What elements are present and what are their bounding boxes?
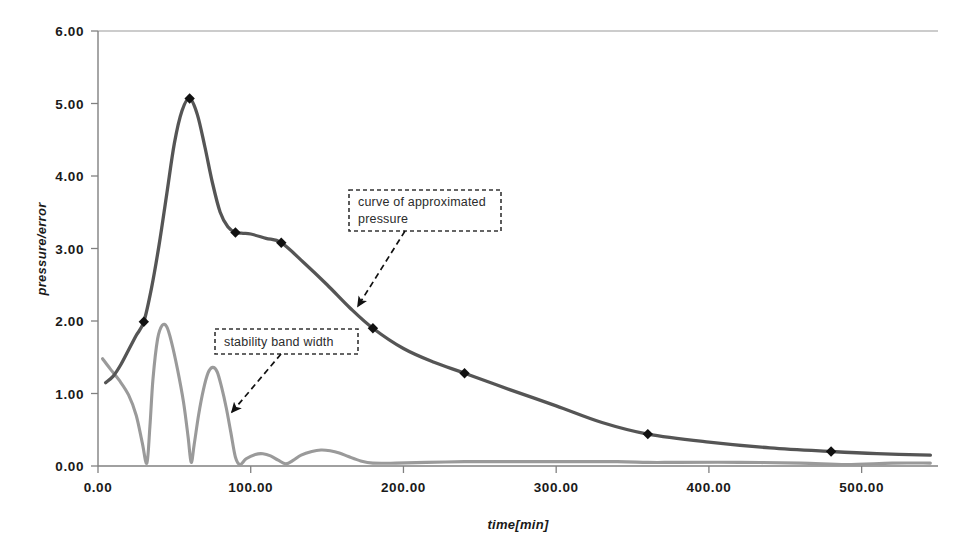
y-axis-title: pressure/error xyxy=(34,202,49,297)
annotation-text: curve of approximated xyxy=(358,195,486,209)
x-tick-label: 0.00 xyxy=(84,480,113,495)
chart-canvas: 0.001.002.003.004.005.006.00 0.00100.002… xyxy=(0,0,968,545)
y-tick-label: 5.00 xyxy=(55,97,84,112)
y-tick-label: 4.00 xyxy=(55,169,84,184)
x-tick-label: 300.00 xyxy=(534,480,579,495)
y-tick-label: 3.00 xyxy=(55,242,84,257)
y-tick-label: 2.00 xyxy=(55,314,84,329)
chart-figure: 0.001.002.003.004.005.006.00 0.00100.002… xyxy=(0,0,968,545)
annotation-text: stability band width xyxy=(224,335,334,349)
y-tick-label: 6.00 xyxy=(55,24,84,39)
x-tick-label: 500.00 xyxy=(839,480,884,495)
x-tick-label: 200.00 xyxy=(381,480,426,495)
x-tick-label: 400.00 xyxy=(686,480,731,495)
y-tick-label: 0.00 xyxy=(55,459,84,474)
y-tick-label: 1.00 xyxy=(55,387,84,402)
x-axis-title: time[min] xyxy=(487,517,549,532)
annotation-text: pressure xyxy=(358,212,408,226)
x-tick-label: 100.00 xyxy=(228,480,273,495)
